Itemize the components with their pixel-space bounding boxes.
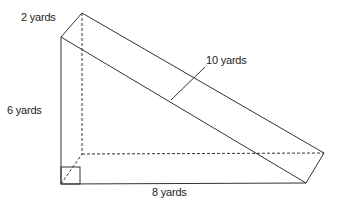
hypotenuse-label: 10 yards bbox=[206, 54, 247, 66]
right-angle-marker bbox=[61, 167, 80, 184]
right-depth-edge bbox=[306, 153, 324, 183]
hypotenuse-leader-line bbox=[171, 67, 205, 100]
base-label: 8 yards bbox=[152, 186, 187, 198]
hidden-bottom-depth-edge bbox=[61, 154, 82, 184]
height-label: 6 yards bbox=[7, 104, 42, 116]
prism-figure bbox=[0, 0, 338, 206]
back-hypotenuse-edge bbox=[82, 13, 324, 153]
front-hypotenuse-edge bbox=[61, 37, 306, 183]
hidden-back-base-edge bbox=[82, 153, 324, 154]
front-base-edge bbox=[61, 183, 306, 184]
top-depth-edge bbox=[61, 13, 82, 37]
depth-label: 2 yards bbox=[21, 11, 56, 23]
